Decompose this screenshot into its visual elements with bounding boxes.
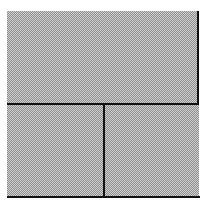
bottom-right-panel <box>105 105 199 196</box>
bottom-border <box>7 196 200 198</box>
top-right-border <box>197 11 199 105</box>
top-panel <box>7 11 198 103</box>
vertical-divider <box>103 104 105 197</box>
bottom-left-panel <box>7 105 103 196</box>
